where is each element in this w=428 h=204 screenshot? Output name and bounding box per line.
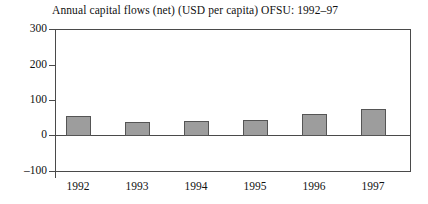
bar-1993	[125, 122, 150, 136]
bar-1992	[66, 116, 91, 136]
x-axis-tick-label-1995: 1995	[225, 180, 285, 193]
y-axis-tick	[49, 100, 56, 101]
zero-baseline	[55, 135, 411, 136]
y-axis-label-wrap: 200	[0, 59, 47, 71]
y-axis-tick-label: 300	[1, 23, 47, 35]
y-axis-label-wrap: 0	[0, 129, 47, 141]
x-axis-tick-label-1992: 1992	[48, 180, 108, 193]
y-axis-label-wrap: 300	[0, 23, 47, 35]
y-axis-tick	[49, 29, 56, 30]
bar-1996	[302, 114, 327, 136]
x-axis-tick-label-1994: 1994	[166, 180, 226, 193]
chart-title: Annual capital flows (net) (USD per capi…	[52, 3, 338, 17]
y-axis-label-wrap: 100	[0, 94, 47, 106]
y-axis-label-wrap: –100	[0, 165, 47, 177]
bar-1997	[361, 109, 386, 136]
x-axis-tick-label-1993: 1993	[107, 180, 167, 193]
y-axis-tick-label: 100	[1, 94, 47, 106]
y-axis-tick	[49, 135, 56, 136]
y-axis-tick	[49, 65, 56, 66]
plot-area	[55, 29, 411, 172]
bar-chart-figure: Annual capital flows (net) (USD per capi…	[0, 0, 428, 204]
y-axis-tick-label: 0	[1, 129, 47, 141]
x-axis-tick-label-1997: 1997	[343, 180, 403, 193]
x-axis-tick	[55, 172, 56, 178]
x-axis-tick-label-1996: 1996	[284, 180, 344, 193]
y-axis-tick-label: 200	[1, 59, 47, 71]
y-axis-tick-label: –100	[1, 165, 47, 177]
bar-1995	[243, 120, 268, 136]
bar-1994	[184, 121, 209, 136]
